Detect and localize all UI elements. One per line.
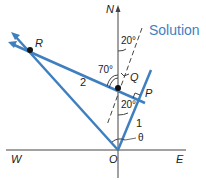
resultant-vector: [15, 36, 118, 150]
angle-arc-top: [118, 49, 126, 51]
label-n: N: [106, 3, 114, 15]
title-solution: Solution: [149, 22, 200, 38]
north-arrow-icon: [116, 5, 121, 12]
angle-left-label: 70°: [98, 64, 113, 75]
theta-label: θ: [138, 132, 144, 143]
label-p: P: [145, 87, 153, 99]
label-r: R: [35, 37, 43, 49]
vector-1-label: 1: [136, 117, 142, 129]
label-q: Q: [130, 71, 139, 83]
label-w: W: [11, 153, 23, 165]
vector-2: [12, 44, 145, 103]
angle-top-label: 20°: [121, 35, 136, 46]
angle-mid-label: 20°: [121, 99, 136, 110]
vector-2-label: 2: [80, 76, 86, 88]
angle-arc-mid: [118, 113, 128, 115]
point-q: [115, 85, 121, 91]
vector-diagram: N Solution 20° R 70° Q 2 P 20° 1 θ W O E: [0, 0, 206, 180]
label-o: O: [109, 153, 118, 165]
label-e: E: [176, 153, 184, 165]
theta-pointer: [125, 138, 136, 140]
point-r: [27, 47, 33, 53]
